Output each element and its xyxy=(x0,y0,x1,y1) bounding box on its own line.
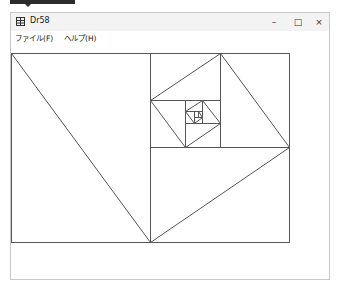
drawn-diagonal xyxy=(199,112,203,118)
drawn-diagonal xyxy=(186,101,203,112)
drawn-diagonal xyxy=(12,54,151,243)
drawn-diagonal xyxy=(186,112,195,124)
drawn-diagonal xyxy=(203,101,221,124)
drawn-diagonal xyxy=(151,54,221,101)
drawn-diagonal xyxy=(151,148,290,243)
drawn-diagonal xyxy=(151,101,186,148)
drawn-diagonal xyxy=(195,118,203,124)
drawn-diagonal xyxy=(221,54,290,148)
drawing-canvas xyxy=(0,0,340,289)
drawn-diagonal xyxy=(186,124,221,148)
